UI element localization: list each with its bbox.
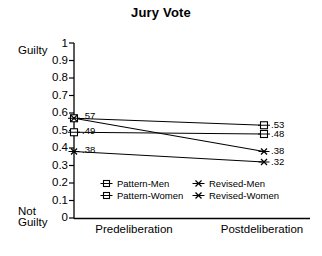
point-label-revised-women-pre: .38 — [82, 145, 95, 155]
x-with-bar-icon — [192, 191, 205, 201]
point-label-pattern-women-post: .48 — [271, 129, 284, 139]
square-with-bar-icon — [100, 191, 113, 201]
point-label-revised-men-post: .38 — [271, 146, 284, 156]
legend-label-revised-women: Revised-Women — [209, 190, 279, 202]
legend-label-pattern-men: Pattern-Men — [117, 178, 169, 190]
legend-label-revised-men: Revised-Men — [209, 178, 265, 190]
chart-legend: Pattern-Men Pattern-Women — [100, 178, 282, 204]
line-revised-women — [74, 152, 264, 163]
line-pattern-men — [74, 118, 264, 125]
legend-column-pattern: Pattern-Men Pattern-Women — [100, 178, 183, 202]
line-revised-men — [74, 118, 264, 151]
point-label-revised-women-post: .32 — [271, 157, 284, 167]
jury-vote-chart: Jury Vote Guilty Not Guilty 1 0.9 0.8 0.… — [0, 0, 322, 256]
line-pattern-women — [74, 132, 264, 134]
marker-revised-men-post — [259, 149, 270, 155]
legend-item-revised-women[interactable]: Revised-Women — [192, 190, 279, 202]
series-lines — [74, 118, 264, 162]
legend-item-pattern-women[interactable]: Pattern-Women — [100, 190, 183, 202]
marker-revised-women-post — [259, 159, 270, 165]
legend-item-pattern-men[interactable]: Pattern-Men — [100, 178, 183, 190]
x-tick-label-postdeliberation: Postdeliberation — [202, 223, 322, 236]
legend-column-revised: Revised-Men Revised-Women — [192, 178, 279, 202]
square-with-bar-icon — [100, 179, 113, 189]
legend-label-pattern-women: Pattern-Women — [117, 190, 183, 202]
point-label-pattern-men-pre: .57 — [82, 111, 95, 121]
legend-item-revised-men[interactable]: Revised-Men — [192, 178, 279, 190]
x-with-bar-icon — [192, 179, 205, 189]
point-label-pattern-women-pre: .49 — [82, 126, 95, 136]
x-tick-label-predeliberation: Predeliberation — [74, 223, 194, 236]
